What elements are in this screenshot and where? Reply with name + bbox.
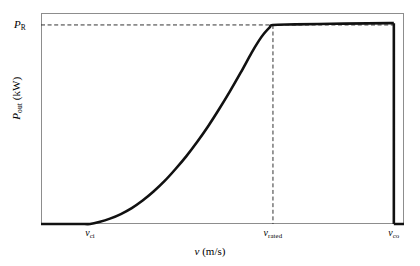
y-axis-label: Pout (kW) xyxy=(11,48,24,148)
power-curve-figure: Pout (kW) PR vci vrated vco v (m/s) xyxy=(0,0,420,266)
power-output-curve xyxy=(41,23,404,224)
x-tick-label-rated: vrated xyxy=(264,228,283,240)
y-tick-label-rated-power: PR xyxy=(14,19,26,32)
x-tick-label-cut-in: vci xyxy=(85,228,95,240)
chart-canvas xyxy=(41,13,404,224)
x-axis-label: v (m/s) xyxy=(0,246,420,257)
x-tick-label-cut-out: vco xyxy=(388,228,399,240)
